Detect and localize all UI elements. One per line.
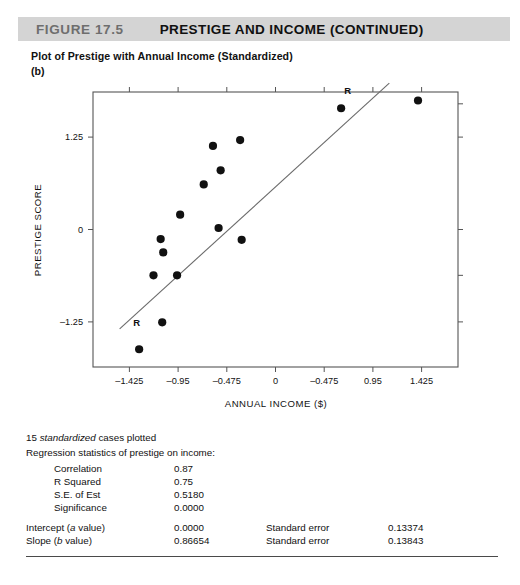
chart-svg: RR –1.425–0.95–0.4750–0.4750.951.425 1.2… — [0, 0, 520, 420]
x-axis-title: ANNUAL INCOME ($) — [225, 398, 328, 409]
regression-marker-label: R — [133, 317, 140, 328]
stats-row-value: 0.0000 — [174, 502, 266, 513]
x-tick-label: 0.95 — [364, 376, 382, 386]
data-point — [149, 271, 157, 279]
regression-statistics-block: 15 standardized cases plotted Regression… — [26, 432, 496, 548]
stats-row-value: 0.87 — [174, 463, 266, 474]
simple-stats-rows: Correlation0.87R Squared0.75S.E. of Est0… — [26, 463, 496, 513]
x-tick-label: –1.425 — [115, 376, 143, 386]
x-axis-ticks — [129, 87, 421, 372]
data-point — [173, 271, 181, 279]
figure-number-label: FIGURE 17.5 — [36, 22, 124, 37]
figure-header-band: FIGURE 17.5 PRESTIGE AND INCOME (CONTINU… — [18, 17, 510, 41]
coefficient-value: 0.86654 — [174, 535, 266, 546]
regression-line — [120, 83, 390, 329]
data-point — [135, 345, 143, 353]
bottom-rule-divider — [26, 556, 498, 557]
standard-error-label: Standard error — [266, 535, 388, 546]
cases-plotted-suffix: cases plotted — [96, 432, 156, 443]
coefficient-stats-rows: Intercept (a value)0.0000Standard error0… — [26, 522, 496, 546]
cases-count: 15 — [26, 432, 40, 443]
regression-marker-label: R — [344, 85, 351, 96]
stats-heading: Regression statistics of prestige on inc… — [26, 447, 496, 458]
panel-letter-label: (b) — [31, 65, 45, 77]
regression-endpoint-labels: RR — [133, 85, 351, 327]
data-point — [200, 180, 208, 188]
cases-standardized-word: standardized — [40, 432, 96, 443]
coefficient-row: Intercept (a value)0.0000Standard error0… — [26, 522, 496, 533]
scatter-plot-chart: RR –1.425–0.95–0.4750–0.4750.951.425 1.2… — [0, 0, 520, 420]
data-point — [214, 224, 222, 232]
plot-frame — [93, 92, 458, 367]
coefficient-row: Slope (b value)0.86654Standard error0.13… — [26, 535, 496, 546]
stats-row-label: Correlation — [54, 463, 174, 474]
coefficient-value: 0.0000 — [174, 522, 266, 533]
y-axis-title: PRESTIGE SCORE — [32, 184, 43, 276]
stats-row-label: R Squared — [54, 476, 174, 487]
data-point — [157, 235, 165, 243]
data-point — [414, 96, 422, 104]
x-axis-tick-labels: –1.425–0.95–0.4750–0.4750.951.425 — [115, 376, 433, 386]
cases-plotted-line: 15 standardized cases plotted — [26, 432, 496, 443]
data-point — [158, 318, 166, 326]
y-tick-label: 0 — [78, 225, 83, 235]
stats-indent — [26, 463, 54, 474]
stats-indent — [26, 476, 54, 487]
coefficient-label: Intercept (a value) — [26, 522, 174, 533]
y-axis-tick-labels: 1.250–1.25 — [60, 132, 83, 327]
data-point — [209, 142, 217, 150]
data-point — [159, 248, 167, 256]
data-point — [217, 166, 225, 174]
x-tick-label: –0.95 — [167, 376, 190, 386]
x-tick-label: –0.475 — [310, 376, 338, 386]
stats-row-label: Significance — [54, 502, 174, 513]
stats-row: S.E. of Est0.5180 — [26, 489, 496, 500]
coefficient-label: Slope (b value) — [26, 535, 174, 546]
y-tick-label: 1.25 — [65, 132, 83, 142]
stats-row-value: 0.75 — [174, 476, 266, 487]
stats-row-label: S.E. of Est — [54, 489, 174, 500]
stats-indent — [26, 502, 54, 513]
stats-row: Significance0.0000 — [26, 502, 496, 513]
x-tick-label: –0.475 — [213, 376, 241, 386]
x-tick-label: 0 — [273, 376, 278, 386]
y-axis-ticks — [88, 104, 463, 322]
data-point — [176, 211, 184, 219]
data-point — [337, 104, 345, 112]
data-points — [135, 96, 422, 353]
standard-error-value: 0.13843 — [388, 535, 478, 546]
stats-row: R Squared0.75 — [26, 476, 496, 487]
plot-subtitle: Plot of Prestige with Annual Income (Sta… — [31, 50, 293, 62]
data-point — [238, 236, 246, 244]
stats-spacer — [26, 515, 496, 522]
figure-title-label: PRESTIGE AND INCOME (CONTINUED) — [160, 22, 424, 37]
stats-row-value: 0.5180 — [174, 489, 266, 500]
standard-error-label: Standard error — [266, 522, 388, 533]
y-tick-label: –1.25 — [60, 317, 83, 327]
x-tick-label: 1.425 — [410, 376, 433, 386]
standard-error-value: 0.13374 — [388, 522, 478, 533]
stats-indent — [26, 489, 54, 500]
data-point — [236, 136, 244, 144]
stats-row: Correlation0.87 — [26, 463, 496, 474]
